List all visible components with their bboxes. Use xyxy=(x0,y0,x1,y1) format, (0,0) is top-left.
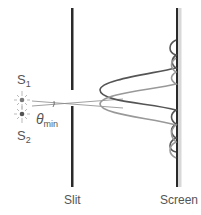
rayleigh-criterion-diagram: S1 S2 θmin Slit Screen xyxy=(0,0,201,215)
source-2-label: S2 xyxy=(17,128,31,145)
diffraction-patterns xyxy=(100,40,176,158)
theta-min-label: θmin xyxy=(36,111,58,129)
screen xyxy=(176,8,178,187)
light-rays xyxy=(32,99,123,108)
slit-barrier xyxy=(71,8,74,187)
source-1-label: S1 xyxy=(17,72,31,89)
screen-label: Screen xyxy=(160,193,198,207)
slit-label: Slit xyxy=(64,193,81,207)
source-2-icon xyxy=(14,106,30,123)
screen-strip xyxy=(178,8,182,187)
